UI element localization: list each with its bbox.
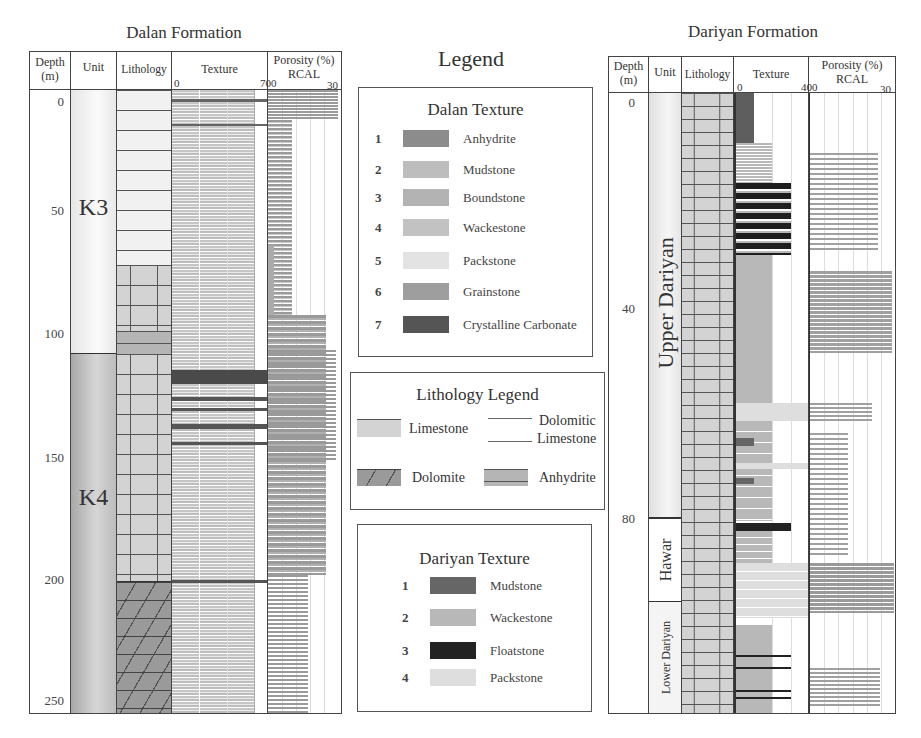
porosity-curve [268,90,338,120]
lith-limestone [117,265,171,331]
texture-wackestone [736,421,772,521]
lithology-header-label: Lithology [121,63,166,75]
texture-band-dark [172,442,267,445]
dalan-texture-header: Texture 0 70 [172,52,268,89]
dariyan-depth-track: 0 40 80 [609,93,649,713]
legend-item: 5Packstone [375,252,516,269]
depth-header-line1: Depth [30,55,70,69]
swatch-wackestone [403,219,449,236]
texture-floatstone-line [736,655,791,657]
legend-label-dolomite: Dolomite [412,470,465,486]
texture-floatstone-line [736,667,791,669]
legend-item: 1Mudstone [402,577,542,594]
dalan-title: Dalan Formation [28,23,340,43]
texture-mudstone [736,478,754,484]
texture-axis-min: 0 [174,76,180,90]
legend-label: Mudstone [490,578,542,594]
dalan-porosity-track [268,90,340,713]
dariyan-texture-track [734,93,809,713]
unit-k3: K3 [71,90,116,354]
porosity-curve [268,245,274,315]
unit-header-label: Unit [654,65,675,79]
texture-wackestone [736,143,772,183]
legend-num: 4 [375,220,403,236]
porosity-grid [881,93,882,713]
unit-k4-label: K4 [71,484,116,511]
texture-packstone [736,563,809,618]
legend-item: 7Crystalline Carbonate [375,316,577,333]
texture-mudstone [736,438,754,446]
depth-tick-40: 40 [609,301,635,317]
dalan-porosity-header: Porosity (%) RCAL 0 30 [268,52,340,89]
legend-label: Wackestone [490,610,552,626]
depth-tick-100: 100 [30,326,64,342]
unit-k3-label: K3 [71,194,116,221]
legend-item: 2Wackestone [402,609,552,626]
legend-label: Grainstone [463,284,520,300]
depth-tick-250: 250 [30,693,64,709]
legend-num: 1 [375,131,403,147]
depth-tick-200: 200 [30,572,64,588]
legend-label: Boundstone [463,190,525,206]
texture-header-label: Texture [753,67,789,81]
lithology-legend-title: Lithology Legend [351,385,604,405]
legend-num: 7 [375,317,403,333]
depth-tick-50: 50 [30,203,64,219]
texture-band-dark [172,408,267,411]
texture-wackestone [736,625,772,713]
dariyan-unit-track: Upper Dariyan Hawar Lower Dariyan [649,93,682,713]
texture-header-label: Texture [201,62,237,76]
legend-num: 3 [402,643,430,659]
unit-lower-dariyan-label: Lower Dariyan [659,610,674,706]
depth-header-line2: (m) [30,69,70,83]
swatch-crystalline-carbonate [403,316,449,333]
dalan-lithology-track [117,90,172,713]
swatch-mudstone [403,161,449,178]
legend-label: Crystalline Carbonate [463,317,577,333]
swatch-floatstone [430,642,476,659]
legend-num: 2 [402,610,430,626]
unit-header-label: Unit [83,60,104,74]
legend-label: Mudstone [463,162,515,178]
legend-item: 3Boundstone [375,189,525,206]
legend-item: 4Wackestone [375,219,525,236]
depth-header-line2: (m) [609,73,648,87]
dariyan-unit-header: Unit [649,57,682,92]
legend-label: Floatstone [490,643,544,659]
lith-anhydrite [117,331,171,354]
unit-k4: K4 [71,354,116,713]
lithology-header-label: Lithology [685,68,730,80]
legend-num: 6 [375,284,403,300]
legend-num: 5 [375,253,403,269]
swatch-packstone [430,669,476,686]
legend-title: Legend [356,46,586,72]
unit-hawar-label: Hawar [657,530,675,590]
dolomitic-limestone-pattern-icon [488,418,532,442]
legend-num: 3 [375,190,403,206]
texture-floatstone-line [736,690,791,692]
unit-upper-dariyan-label: Upper Dariyan [653,244,679,369]
porosity-curve [268,575,308,713]
swatch-boundstone [403,189,449,206]
porosity-curve [268,350,336,460]
dariyan-texture-legend-title: Dariyan Texture [358,549,591,569]
legend-item: 3Floatstone [402,642,544,659]
texture-floatstone [736,523,791,531]
texture-wackestone [736,531,772,563]
legend-label-dolomitic: Dolomitic [539,413,596,429]
anhydrite-pattern-icon [484,469,528,486]
texture-band-dark [172,397,267,401]
swatch-grainstone [403,283,449,300]
dolomite-pattern-icon [357,469,401,486]
depth-tick-150: 150 [30,450,64,466]
porosity-curve [810,433,848,558]
dariyan-porosity-header: Porosity (%) RCAL 0 30 [809,57,895,92]
legend-label-limestone: Limestone [409,421,468,437]
swatch-packstone [403,252,449,269]
porosity-header-label: Porosity (%) [809,58,895,72]
texture-band-crystalline [172,370,267,384]
legend-label: Anhydrite [463,131,516,147]
dariyan-texture-legend: Dariyan Texture 1Mudstone 2Wackestone 3F… [357,524,592,712]
unit-upper-dariyan: Upper Dariyan [649,93,681,519]
texture-wackestone [736,255,772,405]
